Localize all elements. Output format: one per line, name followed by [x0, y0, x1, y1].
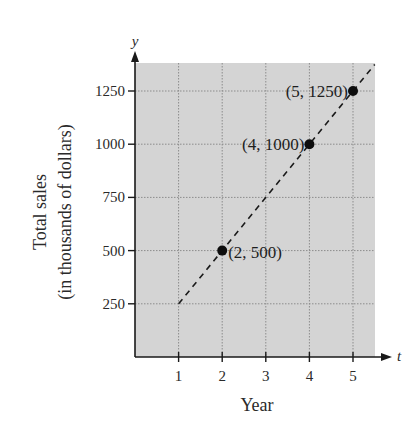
y-tick-label: 250 — [103, 296, 126, 312]
chart: 1234525050075010001250 (2, 500)(4, 1000)… — [0, 0, 417, 425]
y-tick-label: 1000 — [95, 136, 125, 152]
x-axis-title: Year — [240, 395, 273, 415]
data-point-marker — [348, 86, 358, 96]
x-tick-label: 4 — [306, 368, 314, 384]
x-axis-variable: t — [397, 348, 402, 364]
x-tick-label: 5 — [349, 368, 357, 384]
x-axis-arrow-icon — [381, 353, 392, 361]
y-axis-title: Total sales — [30, 174, 50, 250]
y-axis-subtitle: (in thousands of dollars) — [55, 124, 76, 299]
y-tick-label: 1250 — [95, 83, 125, 99]
x-tick-label: 1 — [175, 368, 183, 384]
x-tick-label: 3 — [262, 368, 270, 384]
data-point-marker — [304, 139, 314, 149]
y-axis-variable: y — [130, 33, 139, 49]
data-point-label: (5, 1250) — [286, 82, 348, 101]
x-tick-label: 2 — [218, 368, 226, 384]
data-point-label: (2, 500) — [228, 243, 282, 262]
y-tick-label: 750 — [103, 189, 126, 205]
data-point-label: (4, 1000) — [242, 135, 304, 154]
y-tick-label: 500 — [103, 243, 126, 259]
y-axis-arrow-icon — [131, 51, 139, 62]
data-point-marker — [217, 246, 227, 256]
